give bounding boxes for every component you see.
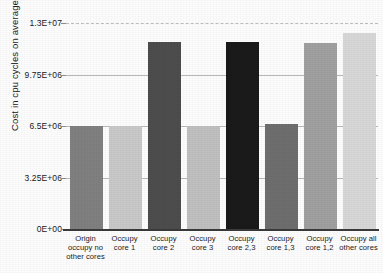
gridline bbox=[66, 23, 378, 24]
x-axis-tick-label-line: other cores bbox=[336, 243, 381, 252]
y-axis-tick-label: 9.75E+06 bbox=[0, 70, 62, 80]
bar[interactable] bbox=[343, 33, 376, 229]
x-axis-tick-label-line: other cores bbox=[63, 252, 108, 261]
bar[interactable] bbox=[226, 42, 259, 229]
bar[interactable] bbox=[70, 126, 103, 229]
y-axis-tick bbox=[61, 126, 66, 127]
y-axis-tick-label: 1.3E+07 bbox=[0, 18, 62, 28]
y-axis-tick bbox=[61, 75, 66, 76]
bar[interactable] bbox=[109, 126, 142, 229]
y-axis-tick bbox=[61, 23, 66, 24]
bar-chart: Cost in cpu cycles on average 1.3E+079.7… bbox=[0, 0, 383, 273]
y-axis-tick-label: 6.5E+06 bbox=[0, 121, 62, 131]
y-axis-tick-label: 0E+00 bbox=[0, 224, 62, 234]
bar[interactable] bbox=[304, 43, 337, 229]
plot-area bbox=[66, 23, 378, 229]
bar[interactable] bbox=[265, 124, 298, 229]
y-axis-tick-label: 3.25E+06 bbox=[0, 173, 62, 183]
x-axis-tick-label-line: Occupy all bbox=[336, 234, 381, 243]
bar[interactable] bbox=[187, 126, 220, 229]
y-axis-tick bbox=[61, 178, 66, 179]
bar[interactable] bbox=[148, 42, 181, 229]
x-axis-tick-label: Occupy allother cores bbox=[336, 234, 381, 252]
x-axis-line bbox=[63, 229, 379, 231]
